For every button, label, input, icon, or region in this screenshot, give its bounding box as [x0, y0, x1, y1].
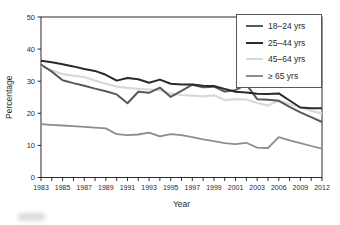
legend-item-3: ≥ 65 yrs — [246, 71, 319, 81]
legend-label: ≥ 65 yrs — [268, 71, 298, 81]
x-tick-label: 2012 — [314, 184, 330, 191]
legend-label: 25–44 yrs — [268, 38, 305, 48]
legend-item-1: 25–44 yrs — [246, 38, 319, 48]
y-tick-label: 30 — [27, 77, 35, 86]
x-axis-title: Year — [173, 199, 190, 209]
scan-artifact — [18, 213, 45, 221]
legend-item-0: 18–24 yrs — [246, 21, 319, 31]
x-tick-label: 1993 — [141, 184, 157, 191]
x-tick-label: 2006 — [271, 184, 287, 191]
y-axis-title: Percentage — [4, 75, 14, 119]
x-tick-label: 1983 — [33, 184, 49, 191]
legend-swatch-icon — [246, 42, 263, 44]
x-tick-label: 1999 — [206, 184, 222, 191]
figure: 0102030405019831985198719891991199319951… — [0, 0, 340, 225]
x-tick-label: 1987 — [76, 184, 92, 191]
legend-swatch-icon — [246, 58, 263, 60]
legend-label: 45–64 yrs — [268, 54, 305, 64]
y-tick-label: 10 — [27, 141, 35, 150]
x-tick-label: 1991 — [120, 184, 136, 191]
x-tick-label: 1985 — [55, 184, 71, 191]
x-tick-label: 1989 — [98, 184, 114, 191]
series-line-3 — [41, 124, 322, 148]
y-tick-label: 40 — [27, 45, 35, 54]
x-tick-label: 1995 — [163, 184, 179, 191]
y-tick-label: 50 — [27, 13, 35, 22]
legend-swatch-icon — [246, 25, 263, 27]
x-tick-label: 2001 — [228, 184, 244, 191]
legend: 18–24 yrs25–44 yrs45–64 yrs≥ 65 yrs — [236, 14, 322, 88]
legend-swatch-icon — [246, 75, 263, 77]
y-tick-label: 0 — [31, 173, 35, 182]
x-tick-label: 2009 — [293, 184, 309, 191]
legend-label: 18–24 yrs — [268, 21, 305, 31]
x-tick-label: 2003 — [249, 184, 265, 191]
legend-item-2: 45–64 yrs — [246, 54, 319, 64]
x-tick-label: 1997 — [185, 184, 201, 191]
y-tick-label: 20 — [27, 109, 35, 118]
